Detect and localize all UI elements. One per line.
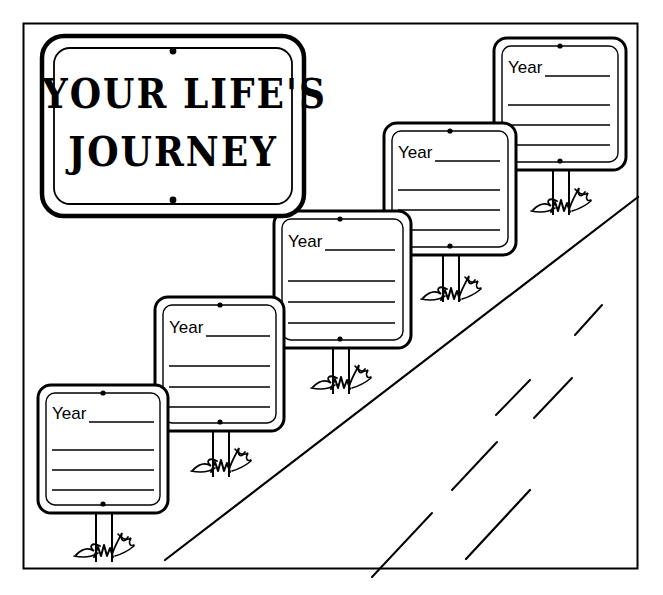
sign-rivet-top [447, 128, 452, 133]
sign-rivet-bottom [337, 336, 342, 341]
sign-rivet-top [217, 302, 222, 307]
year-label-5: Year [508, 58, 542, 78]
year-label-4: Year [398, 143, 432, 163]
sign-rivet-bottom [100, 501, 105, 506]
year-label-2: Year [169, 318, 203, 338]
sign-rivet-bottom [557, 158, 562, 163]
sign-rivet-bottom [447, 243, 452, 248]
title-sign-board [42, 36, 304, 216]
title-sign[interactable] [42, 36, 304, 216]
sign-rivet-top [557, 43, 562, 48]
title-sign-rivet-bottom [170, 197, 177, 204]
title-line-2: JOURNEY [42, 127, 304, 174]
year-label-3: Year [288, 232, 322, 252]
sign-rivet-top [337, 216, 342, 221]
sign-rivet-top [100, 390, 105, 395]
title-sign-rivet-top [170, 48, 177, 55]
sign-rivet-bottom [217, 419, 222, 424]
year-label-1: Year [52, 404, 86, 424]
title-line-1: YOUR LIFE'S [42, 69, 304, 116]
worksheet-page: YOUR LIFE'S JOURNEY Year Year Year Year … [0, 0, 663, 595]
